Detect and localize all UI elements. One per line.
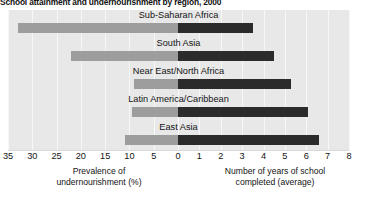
tick-left-15: 15 — [93, 151, 117, 161]
bar-undernourishment — [134, 79, 178, 89]
bar-school-years — [178, 51, 274, 61]
region-label: South Asia — [8, 38, 349, 49]
chart-row: Latin America/Caribbean — [8, 94, 349, 122]
gridline-right-8 — [349, 10, 350, 150]
plot-area: Sub-Saharan AfricaSouth AsiaNear East/No… — [8, 10, 349, 150]
right-axis-caption: Number of years of school completed (ave… — [190, 166, 360, 187]
chart-row: South Asia — [8, 38, 349, 66]
tick-left-20: 20 — [69, 151, 93, 161]
right-axis-caption-line2: completed (average) — [190, 177, 360, 188]
region-label: Latin America/Caribbean — [8, 94, 349, 105]
bar-school-years — [178, 107, 308, 117]
tick-right-8: 8 — [337, 151, 361, 161]
tick-left-25: 25 — [45, 151, 69, 161]
bar-undernourishment — [71, 51, 178, 61]
bar-undernourishment — [18, 23, 178, 33]
region-label: Near East/North Africa — [8, 66, 349, 77]
bar-school-years — [178, 79, 291, 89]
tick-left-5: 5 — [142, 151, 166, 161]
tick-left-10: 10 — [117, 151, 141, 161]
region-label: East Asia — [8, 122, 349, 133]
left-axis-caption: Prevalence of undernourishment (%) — [14, 166, 184, 187]
bar-school-years — [178, 135, 319, 145]
region-label: Sub-Saharan Africa — [8, 10, 349, 21]
chart-row: East Asia — [8, 122, 349, 150]
x-axis-ticks: 3530252015105012345678 — [0, 151, 374, 164]
bar-undernourishment — [125, 135, 178, 145]
chart-row: Near East/North Africa — [8, 66, 349, 94]
tick-left-35: 35 — [0, 151, 20, 161]
tick-left-30: 30 — [20, 151, 44, 161]
right-axis-caption-line1: Number of years of school — [190, 166, 360, 177]
chart-row: Sub-Saharan Africa — [8, 10, 349, 38]
chart-figure: School attainment and undernourishment b… — [0, 0, 374, 199]
bar-undernourishment — [132, 107, 178, 117]
left-axis-caption-line1: Prevalence of — [14, 166, 184, 177]
left-axis-caption-line2: undernourishment (%) — [14, 177, 184, 188]
bar-school-years — [178, 23, 253, 33]
chart-title: School attainment and undernourishment b… — [0, 0, 350, 7]
